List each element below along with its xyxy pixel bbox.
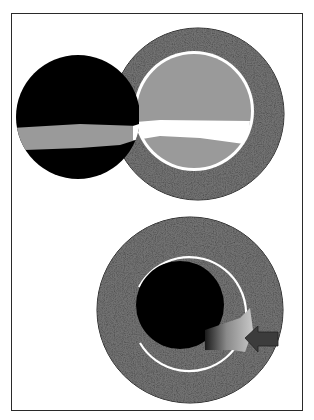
top-panel [10, 28, 284, 200]
diagram-canvas [0, 0, 314, 420]
black-sphere [10, 50, 139, 180]
bottom-panel [97, 217, 283, 403]
inner-gray-lumen [137, 54, 251, 168]
diagram-figure [0, 0, 314, 420]
